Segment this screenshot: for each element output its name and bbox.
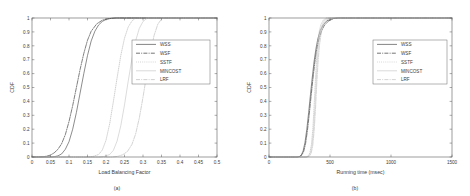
y-tick-label: 0.9 — [23, 30, 30, 35]
legend-label-mincost: MINCOST — [401, 69, 422, 74]
y-tick-label: 0.4 — [23, 99, 30, 104]
legend-label-wss: WSS — [401, 42, 411, 47]
legend-label-wsf: WSF — [160, 51, 170, 56]
y-tick-label: 0 — [27, 155, 30, 160]
y-tick-label: 0.8 — [260, 44, 267, 49]
y-tick-label: 0.5 — [260, 85, 267, 90]
chart-svg-b: 050010001500 00.10.20.30.40.50.60.70.80.… — [235, 0, 470, 196]
y-tick-label: 1 — [27, 16, 30, 21]
y-tick-label: 0.1 — [260, 141, 267, 146]
y-tick-label: 0.6 — [260, 71, 267, 76]
y-tick-label: 0.3 — [260, 113, 267, 118]
plot-background-a — [32, 18, 217, 157]
y-tick-label: 0.4 — [260, 99, 267, 104]
chart-panel-a: 00.050.10.150.20.250.30.350.40.450.5 00.… — [0, 0, 235, 196]
legend-b[interactable]: WSSWSFSSTFMINCOSTLRF — [373, 40, 447, 84]
legend-label-wss: WSS — [160, 42, 170, 47]
x-tick-label: 1000 — [386, 160, 397, 165]
x-tick-label: 0 — [31, 160, 34, 165]
figure-container: 00.050.10.150.20.250.30.350.40.450.5 00.… — [0, 0, 470, 196]
legend-label-mincost: MINCOST — [160, 69, 181, 74]
y-tick-label: 0.7 — [23, 57, 30, 62]
chart-svg-a: 00.050.10.150.20.250.30.350.40.450.5 00.… — [0, 0, 235, 196]
y-tick-label: 0.6 — [23, 71, 30, 76]
x-tick-label: 0.5 — [214, 160, 221, 165]
y-tick-label: 0.7 — [260, 57, 267, 62]
y-tick-label: 0.1 — [23, 141, 30, 146]
panel-caption-a: (a) — [114, 185, 121, 191]
panel-caption-b: (b) — [352, 185, 359, 191]
y-tick-label: 0.2 — [23, 127, 30, 132]
x-tick-label: 0.25 — [120, 160, 129, 165]
x-tick-label: 500 — [326, 160, 334, 165]
plot-background-b — [269, 18, 452, 157]
x-tick-label: 0.3 — [140, 160, 147, 165]
legend-label-lrf: LRF — [160, 77, 169, 82]
x-tick-label: 0.35 — [157, 160, 166, 165]
y-tick-label: 0.3 — [23, 113, 30, 118]
chart-panel-b: 050010001500 00.10.20.30.40.50.60.70.80.… — [235, 0, 470, 196]
y-tick-label: 0.2 — [260, 127, 267, 132]
plot-area-a: 00.050.10.150.20.250.30.350.40.450.5 00.… — [9, 16, 221, 191]
legend-a[interactable]: WSSWSFSSTFMINCOSTLRF — [132, 40, 210, 84]
x-tick-label: 0.05 — [46, 160, 55, 165]
legend-label-sstf: SSTF — [401, 60, 413, 65]
legend-label-lrf: LRF — [401, 77, 410, 82]
y-tick-label: 0.9 — [260, 30, 267, 35]
x-tick-label: 0.1 — [66, 160, 73, 165]
plot-area-b: 050010001500 00.10.20.30.40.50.60.70.80.… — [246, 16, 458, 191]
y-tick-label: 0.8 — [23, 44, 30, 49]
x-tick-label: 0.2 — [103, 160, 110, 165]
x-axis-label-b: Running time (msec) — [337, 169, 385, 175]
x-axis-label-a: Load Balancing Factor — [99, 169, 151, 175]
y-tick-label: 0.5 — [23, 85, 30, 90]
y-axis-label-a: CDF — [9, 82, 15, 93]
y-tick-label: 0 — [264, 155, 267, 160]
x-tick-label: 0 — [268, 160, 271, 165]
y-tick-label: 1 — [264, 16, 267, 21]
legend-label-wsf: WSF — [401, 51, 411, 56]
x-tick-label: 1500 — [447, 160, 458, 165]
legend-label-sstf: SSTF — [160, 60, 172, 65]
x-tick-label: 0.4 — [177, 160, 184, 165]
y-axis-label-b: CDF — [246, 82, 252, 93]
x-tick-label: 0.45 — [194, 160, 203, 165]
x-tick-label: 0.15 — [83, 160, 92, 165]
